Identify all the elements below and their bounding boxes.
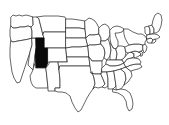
- state-sd[interactable]: [66, 28, 86, 38]
- state-co[interactable]: [48, 48, 67, 62]
- state-wa[interactable]: [11, 15, 33, 28]
- state-nd[interactable]: [66, 19, 85, 29]
- state-nm[interactable]: [46, 62, 60, 91]
- state-wy[interactable]: [43, 32, 66, 48]
- state-ks[interactable]: [66, 46, 89, 57]
- us-map-figure: Map of the United States Utah: [0, 0, 169, 125]
- us-map-svg: [0, 0, 169, 125]
- state-wi[interactable]: [99, 24, 110, 41]
